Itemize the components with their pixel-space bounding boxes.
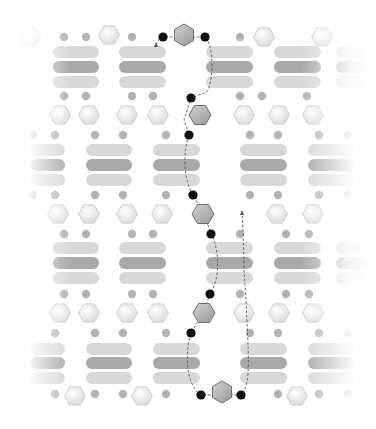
path-hexagon <box>213 381 232 403</box>
bar <box>206 46 253 58</box>
bar <box>308 357 355 369</box>
path-node <box>186 93 195 102</box>
dot <box>60 290 68 298</box>
path-node <box>196 390 205 399</box>
hexagon <box>287 387 308 405</box>
dot <box>315 191 323 199</box>
hexagon <box>117 304 138 322</box>
dot <box>162 390 170 398</box>
bar <box>86 159 132 171</box>
bar <box>240 159 287 171</box>
hexagon <box>117 205 138 223</box>
bar <box>86 144 132 156</box>
dot <box>274 191 282 199</box>
dot <box>51 329 59 337</box>
bar <box>274 46 321 58</box>
bar <box>53 46 99 58</box>
hexagon <box>65 387 86 405</box>
dot <box>82 92 90 100</box>
bar <box>206 76 253 88</box>
bar <box>153 343 200 355</box>
bar <box>53 61 99 73</box>
hexagon <box>148 304 169 322</box>
path-node <box>158 32 167 41</box>
dot <box>128 290 136 298</box>
dot <box>315 390 323 398</box>
bar <box>308 372 355 384</box>
hexagon <box>99 26 120 44</box>
hexagon <box>117 106 138 124</box>
dot <box>344 191 352 199</box>
hexagon <box>269 304 290 322</box>
bar <box>30 174 65 186</box>
path-hexagon <box>189 106 211 125</box>
dot <box>60 230 68 238</box>
dot <box>246 191 254 199</box>
hexagon <box>20 28 41 46</box>
hexagon <box>234 304 255 322</box>
bar <box>336 46 365 58</box>
bar <box>240 144 287 156</box>
path-node <box>206 229 215 238</box>
arrow-icon <box>240 210 244 215</box>
path-node <box>200 32 209 41</box>
hexagon <box>152 205 173 223</box>
bar <box>308 144 355 156</box>
dot <box>119 329 127 337</box>
hexagon <box>234 106 255 124</box>
path-node <box>205 289 214 298</box>
dot <box>29 131 37 139</box>
bar <box>153 144 200 156</box>
dot <box>91 329 99 337</box>
bar <box>308 174 355 186</box>
dot <box>274 329 282 337</box>
bar <box>336 272 365 284</box>
hexagon <box>267 205 288 223</box>
bar <box>240 372 287 384</box>
dot <box>274 390 282 398</box>
dot <box>82 290 90 298</box>
bar <box>206 272 253 284</box>
bar <box>86 343 132 355</box>
dot <box>162 329 170 337</box>
hexagon <box>79 304 100 322</box>
path-hexagon <box>193 304 215 323</box>
bar <box>119 46 166 58</box>
bar <box>240 174 287 186</box>
hexagon <box>312 28 333 46</box>
bar <box>86 357 132 369</box>
hexagon <box>303 205 324 223</box>
dot <box>29 191 37 199</box>
bar <box>30 144 65 156</box>
bar <box>119 257 166 269</box>
hexagon <box>303 106 324 124</box>
dot <box>149 230 157 238</box>
bar <box>153 372 200 384</box>
bar <box>30 159 65 171</box>
bar <box>274 242 321 254</box>
path-node <box>236 390 245 399</box>
dot <box>91 390 99 398</box>
bar <box>30 343 65 355</box>
hexagon <box>303 304 324 322</box>
bar <box>86 174 132 186</box>
path-hexagon <box>175 24 194 46</box>
dot <box>305 230 313 238</box>
hexagon <box>79 205 100 223</box>
dot <box>162 131 170 139</box>
hexagon <box>254 28 275 46</box>
path-node <box>186 328 195 337</box>
dot <box>282 230 290 238</box>
dot <box>149 290 157 298</box>
dot <box>344 131 352 139</box>
dot <box>82 230 90 238</box>
dot <box>274 131 282 139</box>
bar <box>308 159 355 171</box>
bar <box>86 372 132 384</box>
bar <box>336 242 365 254</box>
bar <box>336 76 365 88</box>
dot <box>282 290 290 298</box>
bar <box>30 357 65 369</box>
dot <box>51 191 59 199</box>
lattice-diagram <box>0 0 376 429</box>
